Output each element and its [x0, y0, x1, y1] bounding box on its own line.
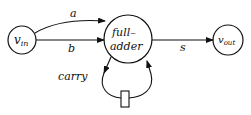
edge-b: b	[36, 40, 104, 55]
edge-a: a	[35, 7, 105, 33]
node-vin: vin	[8, 26, 36, 54]
vout-subscript: out	[224, 39, 236, 47]
full-adder-label-line1: full–	[111, 26, 136, 39]
node-vout: vout	[213, 25, 243, 55]
vin-subscript: in	[21, 39, 29, 48]
svg-text:vout: vout	[218, 34, 235, 47]
edge-s-label: s	[180, 41, 186, 54]
diagram-canvas: vin full– adder vout a b s carry	[0, 0, 251, 115]
edge-b-label: b	[68, 42, 75, 55]
edge-carry-loop: carry	[58, 57, 152, 98]
edge-carry-label: carry	[58, 70, 88, 83]
full-adder-label-line2: adder	[110, 40, 143, 53]
svg-text:vin: vin	[14, 33, 29, 48]
edge-s: s	[152, 40, 213, 54]
node-full-adder: full– adder	[104, 15, 152, 63]
edge-a-label: a	[70, 7, 77, 20]
delay-element	[121, 91, 129, 107]
